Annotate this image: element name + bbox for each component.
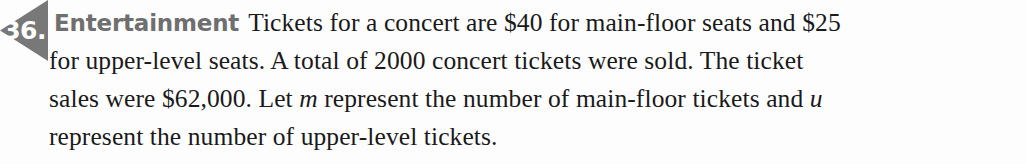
exercise-number-badge: 36. [0,0,48,61]
exercise-body: EntertainmentTickets for a concert are $… [54,4,1026,156]
body-line-3-after-variable: represent the number of main-floor ticke… [318,84,810,113]
body-line-4: represent the number of upper-level tick… [49,118,1026,156]
body-line-1-text: Tickets for a concert are $40 for main-f… [248,8,841,37]
exercise-number: 36. [0,0,48,61]
body-line-3: sales were $62,000. Let m represent the … [49,80,1026,118]
body-line-2: for upper-level seats. A total of 2000 c… [49,42,1026,80]
category-label: Entertainment [54,10,239,36]
body-line-3-before-variable: sales were $62,000. Let [49,84,299,113]
math-variable-u: u [810,84,823,113]
exercise-item: 36. EntertainmentTickets for a concert a… [0,0,1026,164]
math-variable-m: m [299,84,318,113]
body-line-1: EntertainmentTickets for a concert are $… [54,4,1026,42]
